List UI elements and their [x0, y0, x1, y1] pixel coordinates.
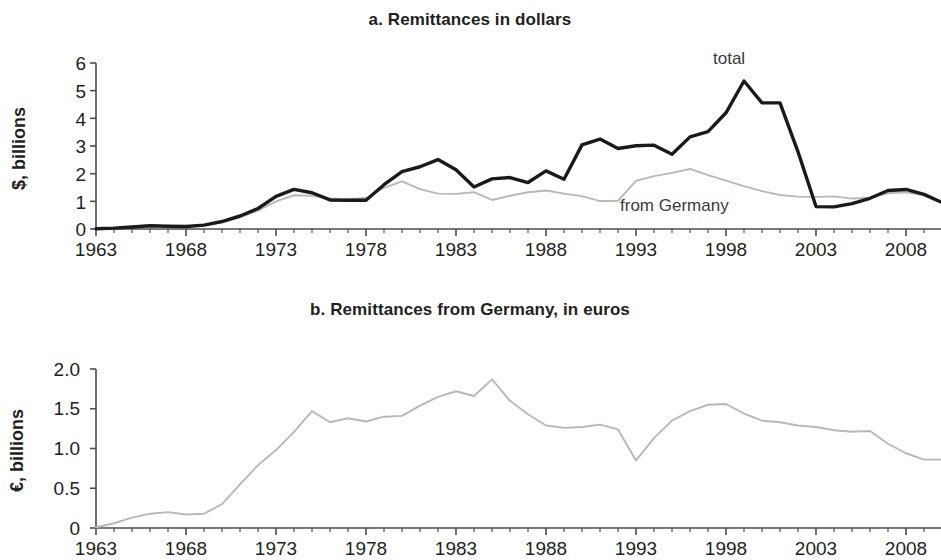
panel-a-plot-area [0, 0, 940, 282]
panel-a-axes [90, 63, 941, 236]
panel-b-plot-area [0, 282, 940, 560]
chart-panel-dollars: a. Remittances in dollars $, billions 6 … [0, 0, 940, 282]
series-line-total [96, 81, 941, 229]
chart-panel-euros: b. Remittances from Germany, in euros €,… [0, 282, 940, 560]
panel-b-axes [90, 369, 941, 535]
panel-b-data-lines [96, 379, 941, 527]
panel-a-data-lines [96, 81, 941, 229]
series-line-from-germany [96, 379, 941, 527]
